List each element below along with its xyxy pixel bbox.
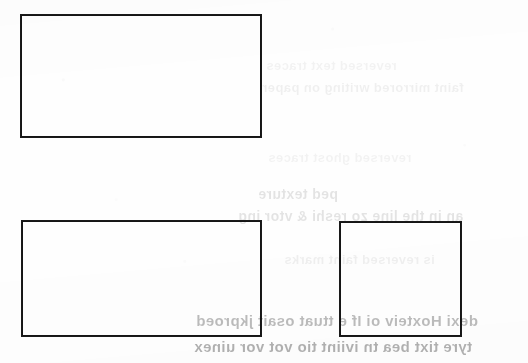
top-left-blank-box[interactable] — [20, 14, 262, 138]
bottom-right-blank-box[interactable] — [339, 221, 462, 337]
scanned-document-page: reversed text traces faint mirrored writ… — [0, 0, 528, 363]
ghost-text-line: reversed text traces — [266, 58, 397, 73]
ghost-text-line: faint mirrored writing on paper — [262, 80, 464, 95]
ghost-text-line: ped texture — [258, 186, 338, 202]
bottom-left-blank-box[interactable] — [21, 220, 262, 337]
ghost-text-line: tyre tixt bea tn iviint tio vot vor uine… — [194, 338, 472, 355]
ghost-text-line: reversed ghost traces — [268, 150, 412, 165]
